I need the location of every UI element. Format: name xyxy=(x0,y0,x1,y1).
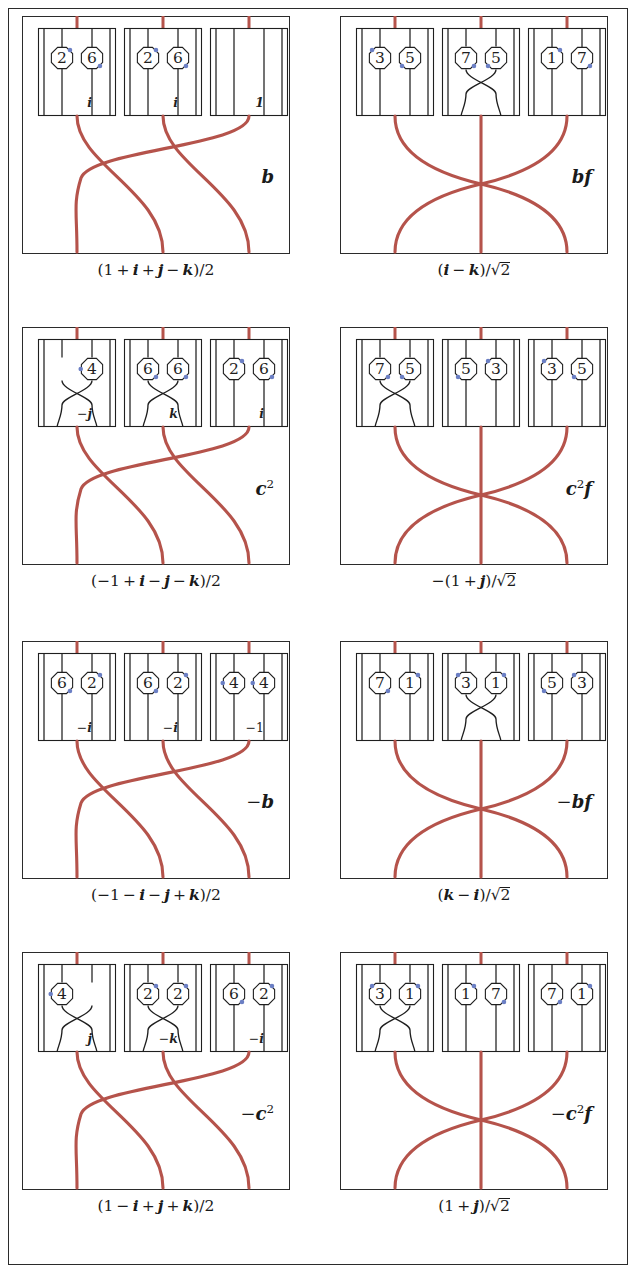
node-value: 2 xyxy=(143,49,153,67)
node-2: 2 xyxy=(51,47,72,68)
inner-cell: 17 xyxy=(529,28,606,116)
node-6: 6 xyxy=(137,672,158,693)
cell-label: k xyxy=(156,407,178,421)
node-3: 3 xyxy=(455,672,476,693)
node-1: 1 xyxy=(399,983,420,1004)
node-marker-dot xyxy=(542,689,547,694)
node-6: 6 xyxy=(167,358,188,379)
node-value: 5 xyxy=(491,49,501,67)
node-7: 7 xyxy=(571,47,592,68)
node-marker-dot xyxy=(588,984,593,989)
node-2: 2 xyxy=(167,672,188,693)
node-marker-dot xyxy=(588,64,593,69)
node-value: 7 xyxy=(491,985,501,1003)
node-1: 1 xyxy=(399,672,420,693)
node-2: 2 xyxy=(137,983,158,1004)
braid-left xyxy=(76,1052,249,1188)
panel-tag: −b xyxy=(246,791,274,812)
cell-label: −i xyxy=(70,721,92,735)
cell-border xyxy=(443,654,520,741)
inner-cell: 31 xyxy=(443,653,520,741)
node-2: 2 xyxy=(137,47,158,68)
cell-label: −i xyxy=(242,1032,264,1046)
panel-5: 626244−i−i−1−b(−1 − i − j + k)/2 xyxy=(22,641,290,919)
node-value: 7 xyxy=(577,49,587,67)
node-marker-dot xyxy=(386,689,391,694)
node-value: 4 xyxy=(87,360,97,378)
node-7: 7 xyxy=(541,983,562,1004)
panel-4: 755335c2f−(1 + j)/√2 xyxy=(340,327,608,605)
cell-label: i xyxy=(156,96,178,110)
node-value: 1 xyxy=(461,985,471,1003)
node-value: 6 xyxy=(57,674,67,692)
inner-cell: 35 xyxy=(529,339,606,427)
panel-tag: c2 xyxy=(255,477,274,499)
node-value: 2 xyxy=(87,674,97,692)
node-6: 6 xyxy=(51,672,72,693)
inner-cell: 71 xyxy=(357,653,434,741)
node-marker-dot xyxy=(184,984,189,989)
cell-border xyxy=(357,29,434,116)
node-value: 2 xyxy=(259,985,269,1003)
node-marker-dot xyxy=(502,1000,507,1005)
panel-canvas: 46626 xyxy=(22,327,290,565)
node-6: 6 xyxy=(81,47,102,68)
node-value: 7 xyxy=(375,360,385,378)
node-value: 2 xyxy=(173,985,183,1003)
node-6: 6 xyxy=(223,983,244,1004)
braid-left xyxy=(76,741,249,877)
node-value: 2 xyxy=(173,674,183,692)
inner-cell: 53 xyxy=(443,339,520,427)
node-value: 5 xyxy=(577,360,587,378)
node-3: 3 xyxy=(541,358,562,379)
node-6: 6 xyxy=(253,358,274,379)
node-value: 3 xyxy=(375,49,385,67)
node-marker-dot xyxy=(572,673,577,678)
braid-strand-1-to-2 xyxy=(77,427,163,563)
cell-border xyxy=(443,29,520,116)
cell-border xyxy=(357,965,434,1052)
node-value: 6 xyxy=(87,49,97,67)
node-value: 3 xyxy=(461,674,471,692)
node-marker-dot xyxy=(98,64,103,69)
panel-tag: −c2 xyxy=(240,1102,274,1124)
cell-label: 1 xyxy=(242,96,264,110)
braid-strand-2-to-3 xyxy=(163,1052,249,1188)
braid-strand-1-to-2 xyxy=(77,116,163,252)
node-3: 3 xyxy=(571,672,592,693)
node-value: 5 xyxy=(547,674,557,692)
node-marker-dot xyxy=(456,673,461,678)
node-marker-dot xyxy=(240,359,245,364)
node-marker-dot xyxy=(370,48,375,53)
panel-canvas: 42262 xyxy=(22,952,290,1190)
node-marker-dot xyxy=(486,64,491,69)
node-marker-dot xyxy=(472,984,477,989)
panel-canvas: 2626 xyxy=(22,16,290,254)
braid-strand-3-to-1 xyxy=(76,116,249,252)
braid-right xyxy=(395,741,567,877)
panel-caption: (k − i)/√2 xyxy=(340,885,608,904)
node-marker-dot xyxy=(154,375,159,380)
node-value: 4 xyxy=(229,674,239,692)
node-5: 5 xyxy=(399,358,420,379)
node-value: 6 xyxy=(173,360,183,378)
cell-border xyxy=(357,654,434,741)
panel-caption: (1 + j)/√2 xyxy=(340,1196,608,1215)
panel-tag: c2f xyxy=(566,477,592,499)
node-marker-dot xyxy=(386,375,391,380)
cell-label: j xyxy=(70,1032,92,1046)
node-value: 2 xyxy=(229,360,239,378)
node-marker-dot xyxy=(184,64,189,69)
node-value: 5 xyxy=(405,49,415,67)
braid-right xyxy=(395,427,567,563)
node-marker-dot xyxy=(456,375,461,380)
node-marker-dot xyxy=(250,681,255,686)
panel-caption: (1 − i + j + k)/2 xyxy=(22,1196,290,1215)
braid-left xyxy=(76,427,249,563)
braid-left xyxy=(76,116,249,252)
node-value: 1 xyxy=(405,985,415,1003)
node-value: 6 xyxy=(259,360,269,378)
node-1: 1 xyxy=(455,983,476,1004)
node-value: 1 xyxy=(491,674,501,692)
node-marker-dot xyxy=(472,64,477,69)
